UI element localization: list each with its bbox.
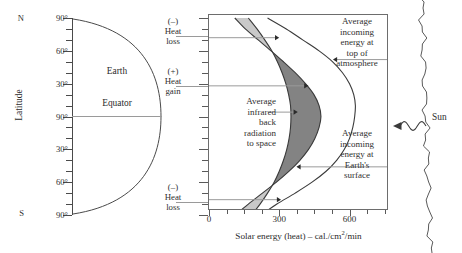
chart-y-tick <box>199 149 208 150</box>
latitude-axis-title: Latitude <box>14 75 24 135</box>
chart-y-tick <box>199 182 208 183</box>
chart-y-tick <box>202 29 208 30</box>
chart-y-tick <box>202 193 208 194</box>
hemisphere-marker-north: N <box>8 13 24 23</box>
heat-line1: Heat <box>152 76 194 86</box>
chart-x-tick <box>244 210 245 214</box>
heat-sign: (–) <box>152 182 194 192</box>
chart-y-tick <box>199 18 208 19</box>
heat-line1: Heat <box>152 26 194 36</box>
equator-label: Equator <box>78 98 156 108</box>
chart-y-tick <box>202 204 208 205</box>
heat-line2: gain <box>152 86 194 96</box>
heat-sign: (+) <box>152 66 194 76</box>
chart-y-tick <box>202 106 208 107</box>
region-heat-loss-south <box>235 186 272 209</box>
heat-line1: Heat <box>152 192 194 202</box>
chart-y-tick <box>202 160 208 161</box>
sun-ray-wave-arrow <box>400 122 426 131</box>
equator-line <box>72 116 162 117</box>
superscript-two: 2 <box>342 229 345 236</box>
latitude-tick-label: 90° <box>26 13 68 23</box>
chart-x-tick-label: 600 <box>330 214 370 224</box>
annotation-top-of-atmosphere: Averageincomingenergy attop ofatmosphere <box>326 16 388 69</box>
latitude-tick-label: 90° <box>26 112 68 122</box>
hemisphere-marker-south: S <box>8 208 24 218</box>
annotation-earth-surface: Averageincomingenergy atEarth'ssurface <box>326 128 388 181</box>
heat-line2: loss <box>152 36 194 46</box>
sun-label: Sun <box>432 112 460 122</box>
chart-x-tick-label: 300 <box>259 214 299 224</box>
region-heat-gain-tropics <box>272 52 321 186</box>
heat-sign: (–) <box>152 16 194 26</box>
latitude-tick-label: 30° <box>26 144 68 154</box>
sun-edge-wavy-line <box>418 0 433 253</box>
chart-y-tick <box>202 138 208 139</box>
sun-ray-arrowhead <box>393 122 402 130</box>
chart-x-axis-title: Solar energy (heat) – cal./cm2/min <box>196 229 401 241</box>
chart-y-tick <box>202 171 208 172</box>
chart-y-tick <box>202 40 208 41</box>
chart-x-tick <box>385 210 386 214</box>
arrowhead <box>296 164 300 169</box>
arrowhead <box>275 35 279 40</box>
chart-y-tick <box>202 127 208 128</box>
chart-y-tick <box>202 62 208 63</box>
latitude-tick-label: 60° <box>26 177 68 187</box>
sun-graphic <box>392 0 462 253</box>
heat-annotation-gain: (+) Heat gain <box>152 66 194 96</box>
latitude-tick-label: 30° <box>26 79 68 89</box>
chart-y-tick <box>199 117 208 118</box>
heat-annotation-south-loss: (–) Heat loss <box>152 182 194 212</box>
chart-x-tick-label: 0 <box>189 214 229 224</box>
heat-line2: loss <box>152 202 194 212</box>
chart-x-tick <box>314 210 315 214</box>
chart-y-tick <box>202 73 208 74</box>
latitude-tick-label: 90° <box>26 210 68 220</box>
heat-annotation-north-loss: (–) Heat loss <box>152 16 194 46</box>
earth-label: Earth <box>80 66 154 76</box>
chart-y-tick <box>199 51 208 52</box>
annotation-infrared-back-radiation: Averageinfraredbackradiationto space <box>214 96 276 149</box>
figure-root: Latitude 90°60°30°90°30°60°90° N S Earth… <box>0 0 462 253</box>
chart-y-tick <box>199 84 208 85</box>
chart-y-tick <box>202 95 208 96</box>
latitude-tick-label: 60° <box>26 46 68 56</box>
